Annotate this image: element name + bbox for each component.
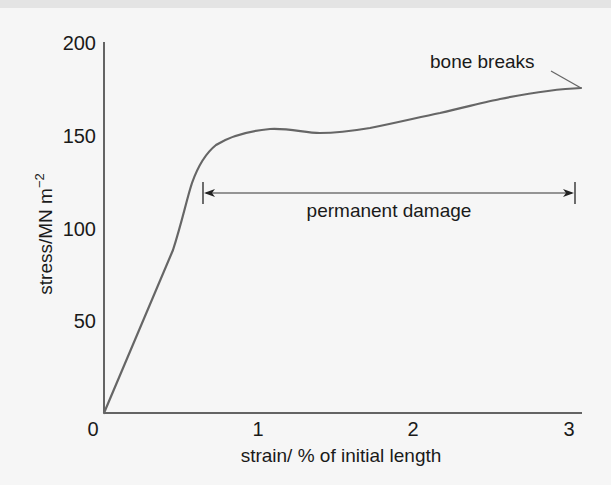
y-tick-label: 150 bbox=[63, 125, 96, 147]
x-tick-label: 2 bbox=[407, 418, 418, 440]
bone-breaks-label: bone breaks bbox=[430, 51, 535, 72]
y-axis-title-sup: −2 bbox=[32, 173, 47, 188]
permanent-damage-label: permanent damage bbox=[307, 200, 472, 221]
stress-strain-curve bbox=[104, 88, 581, 413]
y-tick-label: 100 bbox=[63, 218, 96, 240]
x-axis-title: strain/ % of initial length bbox=[241, 445, 442, 466]
x-tick-label: 1 bbox=[252, 418, 263, 440]
x-tick-label: 3 bbox=[563, 418, 574, 440]
y-axis-title-group: stress/MN m−2 bbox=[32, 173, 56, 294]
y-tick-label: 50 bbox=[74, 310, 96, 332]
y-axis-title: stress/MN m−2 bbox=[32, 173, 56, 294]
y-tick-label: 200 bbox=[63, 32, 96, 54]
stress-strain-chart: 200 150 100 50 0 1 2 3 strain/ % of init… bbox=[0, 0, 611, 485]
x-tick-label: 0 bbox=[87, 418, 98, 440]
y-axis-title-text: stress/MN m bbox=[35, 188, 56, 295]
bone-breaks-leader-line bbox=[551, 71, 581, 88]
